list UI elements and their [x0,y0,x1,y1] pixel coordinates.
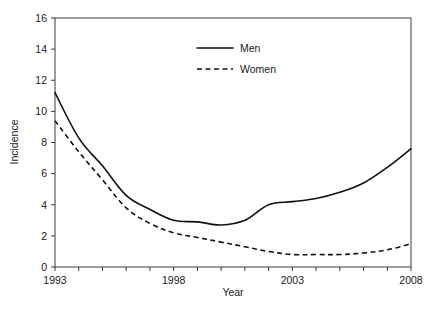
y-tick-label: 14 [35,43,47,55]
series-line-women [55,121,411,255]
legend-label-women: Women [240,63,276,75]
x-axis-title: Year [222,286,244,298]
y-tick-label: 2 [41,230,47,242]
y-tick-label: 4 [41,199,47,211]
incidence-line-chart: 0246810121416 1993199820032008 Men Women… [0,0,426,313]
legend-label-men: Men [240,42,261,54]
y-tick-label: 0 [41,261,47,273]
x-axis: 1993199820032008 [43,267,423,286]
x-tick-label: 2003 [281,274,305,286]
y-tick-label: 10 [35,105,47,117]
chart-figure: 0246810121416 1993199820032008 Men Women… [0,0,426,313]
y-axis-title: Incidence [8,119,20,164]
x-tick-label: 1998 [162,274,186,286]
series-line-men [55,93,411,225]
y-tick-label: 16 [35,12,47,24]
y-tick-label: 6 [41,167,47,179]
plot-frame [55,18,411,267]
y-axis: 0246810121416 [35,12,55,273]
chart-legend: Men Women [197,42,276,75]
x-tick-label: 1993 [43,274,67,286]
y-tick-label: 12 [35,74,47,86]
x-tick-label: 2008 [399,274,423,286]
y-tick-label: 8 [41,136,47,148]
